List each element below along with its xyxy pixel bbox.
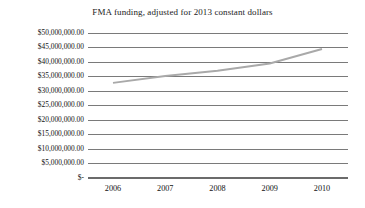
x-axis-tick-label: 2006 <box>105 184 121 193</box>
chart-container: FMA funding, adjusted for 2013 constant … <box>0 0 365 208</box>
x-axis-tick-label: 2008 <box>209 184 225 193</box>
x-axis-tick-labels: 20062007200820092010 <box>0 0 365 208</box>
x-axis-tick-label: 2009 <box>262 184 278 193</box>
x-axis-tick-label: 2007 <box>157 184 173 193</box>
x-axis-tick-label: 2010 <box>314 184 330 193</box>
